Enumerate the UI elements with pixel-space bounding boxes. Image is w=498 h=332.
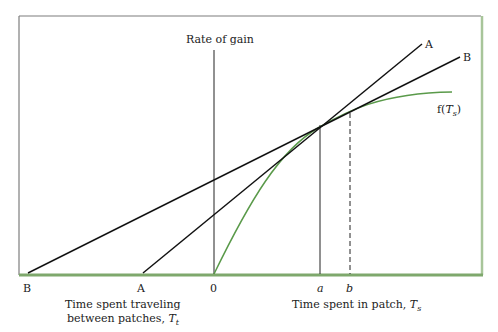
frame <box>19 16 483 275</box>
travel-time-label-line2: between patches, Tt <box>67 312 180 327</box>
y-axis-label: Rate of gain <box>186 33 254 46</box>
mvt-diagram: Rate of gain A B f(Ts) B A 0 a b Time sp… <box>0 0 498 332</box>
travel-point-b-label: B <box>23 282 31 295</box>
patch-point-a-label: a <box>317 282 324 295</box>
tangent-line-b <box>28 57 460 273</box>
patch-time-label: Time spent in patch, Ts <box>292 298 421 313</box>
line-a-end-label: A <box>424 38 434 51</box>
tangent-line-a <box>143 44 422 273</box>
line-b-end-label: B <box>463 51 471 64</box>
patch-point-b-label: b <box>346 282 353 295</box>
travel-point-a-label: A <box>136 282 146 295</box>
curve-label: f(Ts) <box>437 103 461 118</box>
origin-label: 0 <box>210 282 217 295</box>
travel-time-label-line1: Time spent traveling <box>65 298 181 311</box>
gain-curve <box>214 92 452 274</box>
